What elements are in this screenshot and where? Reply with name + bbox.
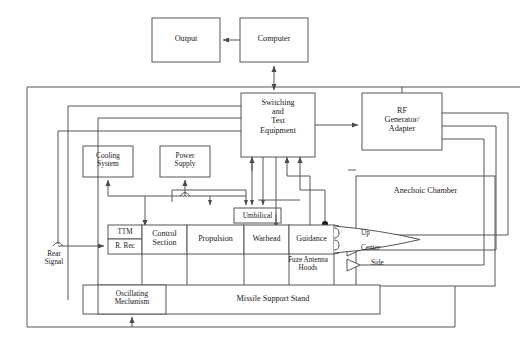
box-power-supply — [160, 146, 210, 177]
route-umbilical-feed — [172, 190, 246, 205]
loop-level3 — [98, 118, 241, 285]
diagram-vector-layer — [0, 0, 520, 350]
missile-seg-control — [142, 225, 187, 254]
box-umbilical — [234, 208, 281, 223]
missile-r-rec — [108, 239, 142, 254]
box-output — [152, 18, 220, 62]
box-cooling — [83, 146, 133, 177]
box-oscillating — [98, 285, 166, 314]
missile-seg-guidance — [289, 225, 334, 254]
diagram-canvas: Output Computer Switching and Test Equip… — [0, 0, 520, 350]
missile-seg-warhead — [244, 225, 289, 254]
missile-ttm — [108, 225, 142, 239]
loop-level2 — [68, 106, 241, 300]
fuze-hood-lower — [334, 240, 339, 250]
missile-seg-propulsion — [187, 225, 244, 254]
box-switching — [241, 93, 315, 157]
box-computer — [240, 18, 308, 62]
route-fuze-right — [300, 190, 325, 225]
fuze-hood-upper — [334, 228, 339, 238]
box-rf-generator — [362, 93, 442, 150]
